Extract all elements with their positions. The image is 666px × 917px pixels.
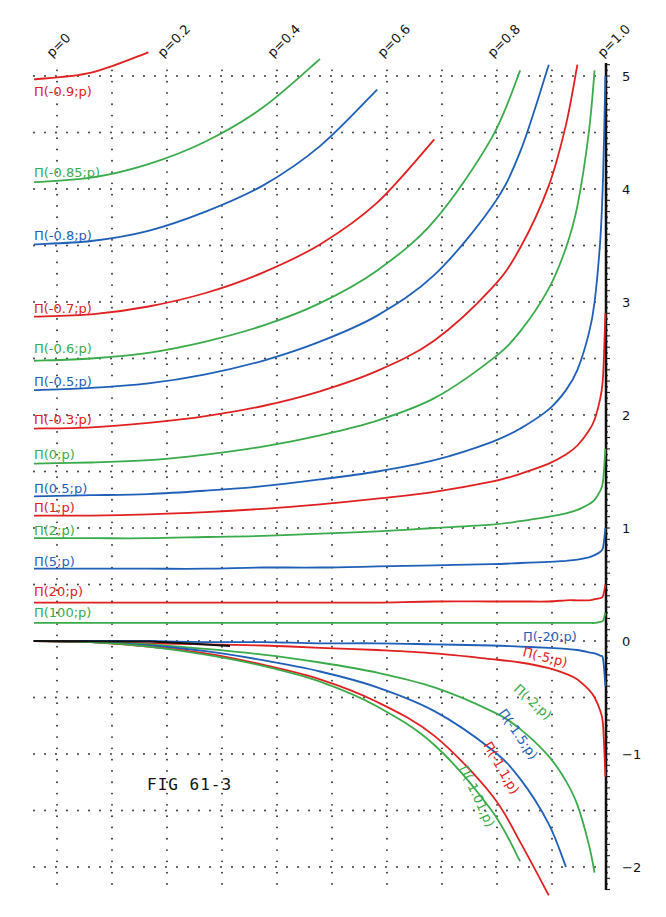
grid-dot <box>484 584 486 586</box>
grid-dot <box>418 301 420 303</box>
grid-dot <box>242 697 244 699</box>
grid-dot <box>441 793 443 795</box>
grid-dot <box>221 533 223 535</box>
curve-0p <box>34 70 595 463</box>
grid-dot <box>33 471 35 473</box>
grid-dot <box>551 307 553 309</box>
grid-dot <box>583 866 585 868</box>
grid-dot <box>319 753 321 755</box>
grid-dot <box>221 634 223 636</box>
grid-dot <box>165 414 167 416</box>
grid-dot <box>374 245 376 247</box>
grid-dot <box>374 527 376 529</box>
y-axis <box>606 63 610 890</box>
grid-dot <box>363 132 365 134</box>
grid-dot <box>386 307 388 309</box>
grid-dot <box>176 866 178 868</box>
grid-dot <box>77 132 79 134</box>
grid-dot <box>111 352 113 354</box>
grid-dot <box>110 471 112 473</box>
grid-dot <box>143 471 145 473</box>
curve-label: Π(-0.85;p) <box>34 165 100 180</box>
grid-dot <box>551 725 553 727</box>
grid-dot <box>352 640 354 642</box>
grid-dot <box>121 188 123 190</box>
grid-dot <box>352 810 354 812</box>
grid-dot <box>551 262 553 264</box>
grid-dot <box>264 75 266 77</box>
grid-dot <box>441 250 443 252</box>
grid-dot <box>33 697 35 699</box>
grid-dot <box>99 414 101 416</box>
grid-dot <box>473 358 475 360</box>
grid-dot <box>374 810 376 812</box>
curves <box>34 52 605 895</box>
grid-dot <box>386 668 388 670</box>
grid-dot <box>496 216 498 218</box>
grid-dot <box>276 815 278 817</box>
grid-dot <box>221 770 223 772</box>
grid-dot <box>386 420 388 422</box>
grid-dot <box>111 849 113 851</box>
grid-dot <box>517 866 519 868</box>
grid-dot <box>253 753 255 755</box>
grid-dot <box>276 488 278 490</box>
grid-dot <box>166 115 168 117</box>
grid-dot <box>56 262 58 264</box>
grid-dot <box>572 414 574 416</box>
grid-dot <box>176 188 178 190</box>
grid-dot <box>363 584 365 586</box>
grid-dot <box>539 75 541 77</box>
grid-dot <box>176 132 178 134</box>
grid-dot <box>308 414 310 416</box>
grid-dot <box>121 358 123 360</box>
grid-dot <box>572 358 574 360</box>
grid-dot <box>111 431 113 433</box>
grid-dot <box>396 527 398 529</box>
grid-dot <box>242 810 244 812</box>
grid-dot <box>331 397 333 399</box>
grid-dot <box>331 149 333 151</box>
grid-dot <box>111 488 113 490</box>
grid-dot <box>166 137 168 139</box>
grid-dot <box>276 465 278 467</box>
grid-dot <box>496 521 498 523</box>
grid-dot <box>341 188 343 190</box>
grid-dot <box>221 499 223 501</box>
grid-dot <box>166 860 168 862</box>
grid-dot <box>331 250 333 252</box>
grid-dot <box>572 75 574 77</box>
grid-dot <box>441 465 443 467</box>
grid-dot <box>166 759 168 761</box>
grid-dot <box>56 126 58 128</box>
grid-dot <box>407 866 409 868</box>
grid-dot <box>341 640 343 642</box>
grid-dot <box>341 358 343 360</box>
grid-dot <box>275 188 277 190</box>
grid-dot <box>496 668 498 670</box>
grid-dot <box>166 725 168 727</box>
grid-dot <box>308 301 310 303</box>
grid-dot <box>330 414 332 416</box>
grid-dot <box>264 753 266 755</box>
grid-dot <box>166 160 168 162</box>
curve--0.85p <box>34 59 320 182</box>
grid-dot <box>264 584 266 586</box>
grid-dot <box>253 471 255 473</box>
grid-dot <box>77 697 79 699</box>
curve-label: Π(-0.3;p) <box>34 412 92 427</box>
grid-dot <box>441 160 443 162</box>
grid-dot <box>331 646 333 648</box>
grid-dot <box>331 634 333 636</box>
grid-dot <box>517 188 519 190</box>
grid-dot <box>231 753 233 755</box>
grid-dot <box>441 860 443 862</box>
grid-dot <box>495 75 497 77</box>
grid-dot <box>276 126 278 128</box>
grid-dot <box>110 527 112 529</box>
grid-dot <box>111 205 113 207</box>
grid-dot <box>56 544 58 546</box>
grid-dot <box>111 714 113 716</box>
curve--5p <box>34 641 605 777</box>
grid-dot <box>495 697 497 699</box>
